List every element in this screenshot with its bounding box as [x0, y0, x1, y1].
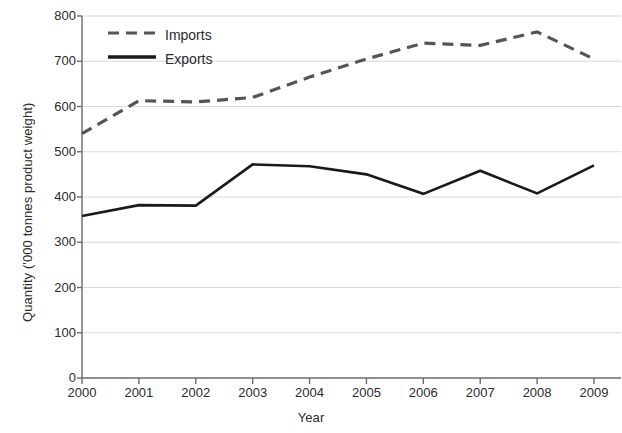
axis-ticks	[77, 16, 594, 384]
series-line-exports	[82, 164, 594, 216]
series-line-imports	[82, 32, 594, 134]
plot-area	[0, 0, 622, 433]
legend-swatches	[108, 33, 156, 57]
gridlines	[82, 16, 621, 333]
series-layer	[82, 32, 594, 216]
line-chart: Quantity ('000 tonnes product weight) Ye…	[0, 0, 622, 433]
legend-item-imports: Imports	[165, 27, 212, 43]
legend-item-exports: Exports	[165, 51, 212, 67]
